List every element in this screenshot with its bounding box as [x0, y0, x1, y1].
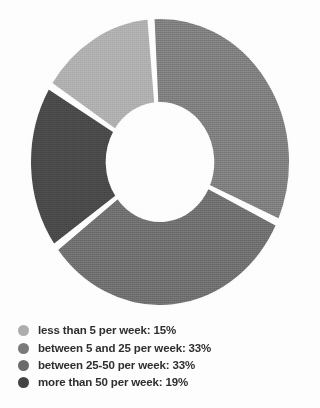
- legend-swatch-medium-dark-gray: [18, 360, 29, 371]
- legend-item-label: between 5 and 25 per week: 33%: [38, 342, 211, 355]
- donut-chart-svg: [28, 16, 292, 308]
- donut-chart: [0, 8, 320, 313]
- chart-legend: less than 5 per week: 15% between 5 and …: [18, 322, 308, 392]
- legend-item-label: less than 5 per week: 15%: [38, 324, 176, 337]
- legend-item: less than 5 per week: 15%: [18, 322, 308, 339]
- page-root: less than 5 per week: 15% between 5 and …: [0, 0, 320, 408]
- legend-swatch-medium-gray: [18, 343, 29, 354]
- legend-item: between 5 and 25 per week: 33%: [18, 339, 308, 356]
- legend-item-label: between 25-50 per week: 33%: [38, 359, 195, 372]
- legend-item: more than 50 per week: 19%: [18, 374, 308, 391]
- donut-slice-group: [30, 18, 290, 306]
- legend-item: between 25-50 per week: 33%: [18, 357, 308, 374]
- donut-slice[interactable]: [154, 18, 290, 220]
- legend-swatch-light-gray: [18, 325, 29, 336]
- legend-swatch-dark-gray: [18, 377, 29, 388]
- legend-item-label: more than 50 per week: 19%: [38, 376, 188, 389]
